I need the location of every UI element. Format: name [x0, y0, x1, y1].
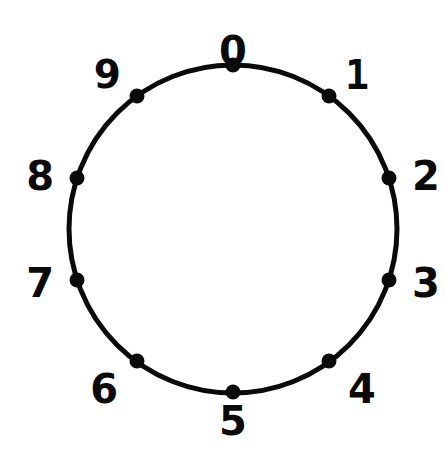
node-dot — [322, 89, 337, 104]
node-label-4: 4 — [348, 369, 376, 409]
node-dot — [130, 89, 145, 104]
node-label-6: 6 — [90, 369, 118, 409]
node-label-0: 0 — [219, 31, 247, 71]
node-label-8: 8 — [26, 156, 54, 196]
node-label-2: 2 — [412, 156, 440, 196]
node-dot — [130, 354, 145, 369]
node-label-7: 7 — [26, 263, 54, 303]
node-label-9: 9 — [94, 55, 121, 94]
node-label-3: 3 — [412, 263, 440, 303]
node-dot — [70, 171, 85, 186]
node-dot — [322, 354, 337, 369]
node-dot — [70, 273, 85, 288]
diagram-canvas: 0123456789 — [0, 0, 446, 462]
node-label-5: 5 — [219, 401, 247, 441]
node-dot — [382, 273, 397, 288]
node-dot — [382, 171, 397, 186]
node-label-1: 1 — [345, 55, 369, 95]
